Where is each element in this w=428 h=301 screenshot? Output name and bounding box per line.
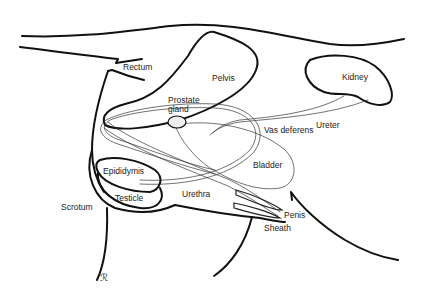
label-rectum: Rectum (123, 62, 152, 72)
back-outline (22, 25, 404, 46)
label-ureter: Ureter (316, 120, 340, 130)
diagram-drawing: Rectum Pelvis Kidney Prostate gland Vas … (0, 0, 428, 301)
prostate-gland-shape (168, 116, 186, 128)
label-epididymis: Epididymis (103, 166, 144, 176)
label-pelvis: Pelvis (212, 73, 235, 83)
rectum-outline (20, 47, 142, 63)
hind-leg-front (214, 217, 252, 276)
label-kidney: Kidney (342, 72, 369, 82)
label-prostate-2: gland (168, 104, 189, 114)
label-sheath: Sheath (264, 223, 291, 233)
label-penis: Penis (284, 210, 305, 220)
belly-outline (291, 192, 398, 260)
label-bladder: Bladder (253, 160, 282, 170)
label-scrotum: Scrotum (61, 202, 93, 212)
label-urethra: Urethra (182, 189, 211, 199)
label-testicle: Testicle (115, 193, 144, 203)
label-vas-deferens: Vas deferens (264, 125, 313, 135)
hind-leg-back (97, 208, 107, 280)
artist-signature: ℛ (100, 272, 108, 283)
anatomy-diagram: Rectum Pelvis Kidney Prostate gland Vas … (0, 0, 428, 301)
penis-outline (236, 190, 282, 210)
